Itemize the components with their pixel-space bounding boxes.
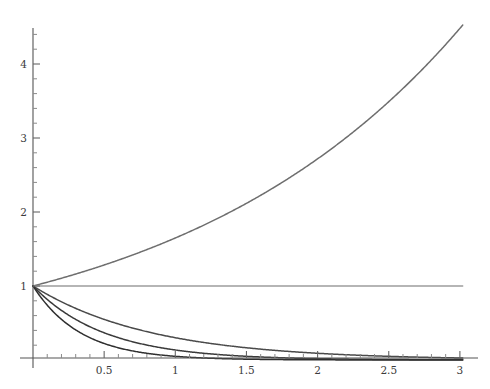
x-tick-label-2: 2 — [314, 364, 321, 376]
plot-root: 0.511.522.531234 — [0, 0, 490, 389]
y-tick-label-2: 2 — [20, 206, 27, 218]
x-tick-label-0.5: 0.5 — [96, 364, 113, 376]
curve-exp-decay-medium — [33, 286, 463, 360]
ticks-layer — [33, 34, 460, 358]
axes-layer — [20, 28, 478, 368]
x-tick-label-2.5: 2.5 — [380, 364, 397, 376]
curve-exp-decay-fast — [33, 286, 463, 360]
y-tick-label-1: 1 — [20, 280, 27, 292]
curve-exp-decay-slow — [33, 286, 463, 358]
y-tick-label-3: 3 — [20, 132, 27, 144]
x-tick-label-3: 3 — [457, 364, 464, 376]
exponential-functions-plot: 0.511.522.531234 — [0, 0, 490, 389]
y-tick-label-4: 4 — [20, 58, 27, 70]
curve-exp-growth — [33, 25, 463, 286]
curves-layer — [33, 25, 463, 360]
tick-labels-layer: 0.511.522.531234 — [20, 58, 463, 376]
x-tick-label-1: 1 — [172, 364, 179, 376]
x-tick-label-1.5: 1.5 — [238, 364, 255, 376]
